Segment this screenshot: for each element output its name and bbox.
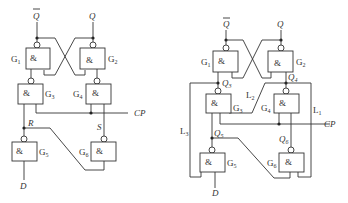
g2-label: G2 bbox=[296, 57, 306, 68]
q-label: Q bbox=[277, 19, 284, 29]
g5-and-symbol: & bbox=[205, 157, 212, 167]
g5-bubble bbox=[21, 136, 27, 142]
g3-bubble bbox=[28, 78, 34, 84]
cp-label: CP bbox=[134, 108, 146, 118]
g2-label: G2 bbox=[108, 54, 118, 65]
g2-and-symbol: & bbox=[86, 55, 93, 65]
g2-bubble bbox=[90, 42, 96, 48]
g6-label: G6 bbox=[79, 147, 89, 158]
q-bar-label: Q bbox=[223, 19, 230, 29]
q4-label: Q4 bbox=[288, 72, 298, 83]
g3-label: G3 bbox=[233, 103, 243, 114]
gate-g3 bbox=[18, 84, 43, 104]
g4-bubble bbox=[283, 88, 289, 94]
g4-label: G4 bbox=[261, 103, 271, 114]
d-label: D bbox=[211, 188, 219, 198]
q5-label: Q5 bbox=[214, 128, 224, 139]
g1-bubble bbox=[34, 42, 40, 48]
l1-label: L1 bbox=[313, 105, 322, 116]
gate-g5 bbox=[200, 153, 225, 172]
g4-and-symbol: & bbox=[92, 88, 99, 98]
cp-label: CP bbox=[324, 119, 336, 129]
s-label: S bbox=[97, 122, 102, 132]
g3-label: G3 bbox=[45, 89, 55, 100]
g3-and-symbol: & bbox=[23, 88, 30, 98]
g5-label: G5 bbox=[39, 147, 49, 158]
cp-junction bbox=[277, 122, 280, 125]
g6-and-symbol: & bbox=[285, 157, 292, 167]
gate-g3 bbox=[206, 94, 231, 113]
g4-label: G4 bbox=[73, 89, 83, 100]
q3-label: Q3 bbox=[222, 78, 232, 89]
q-bar-label: Q bbox=[33, 11, 40, 21]
gate-g1 bbox=[213, 51, 238, 72]
g1-and-symbol: & bbox=[218, 56, 225, 66]
g1-bubble bbox=[223, 45, 229, 51]
r-label: R bbox=[27, 118, 34, 128]
gate-g4 bbox=[274, 94, 299, 113]
g2-and-symbol: & bbox=[274, 58, 281, 68]
cp-junction bbox=[89, 111, 92, 114]
g6-bubble bbox=[288, 147, 294, 153]
g1-label: G1 bbox=[11, 54, 21, 65]
g5-label: G5 bbox=[227, 158, 237, 169]
right-circuit: Q Q & G1 & G2 Q3 Q4 L3 L1 bbox=[180, 18, 336, 198]
g5-and-symbol: & bbox=[16, 146, 23, 156]
g2-bubble bbox=[278, 45, 284, 51]
g4-bubble bbox=[94, 78, 100, 84]
g3-bubble bbox=[215, 88, 221, 94]
g6-bubble bbox=[101, 136, 107, 142]
l3-label: L3 bbox=[180, 126, 189, 137]
g1-label: G1 bbox=[201, 57, 211, 68]
l2-label: L2 bbox=[246, 90, 255, 101]
q-label: Q bbox=[89, 11, 96, 21]
gate-g6 bbox=[91, 142, 116, 161]
g6-label: G6 bbox=[267, 158, 277, 169]
q6-label: Q6 bbox=[279, 134, 289, 145]
g6-and-symbol: & bbox=[96, 146, 103, 156]
d-label: D bbox=[19, 181, 27, 191]
circuit-figure: Q Q & G1 & G2 & G3 & G4 bbox=[0, 0, 348, 203]
g3-and-symbol: & bbox=[211, 98, 218, 108]
g4-and-symbol: & bbox=[279, 98, 286, 108]
g5-bubble bbox=[209, 147, 215, 153]
cp-wire bbox=[36, 104, 128, 113]
left-circuit: Q Q & G1 & G2 & G3 & G4 bbox=[11, 9, 146, 191]
g1-and-symbol: & bbox=[30, 53, 37, 63]
